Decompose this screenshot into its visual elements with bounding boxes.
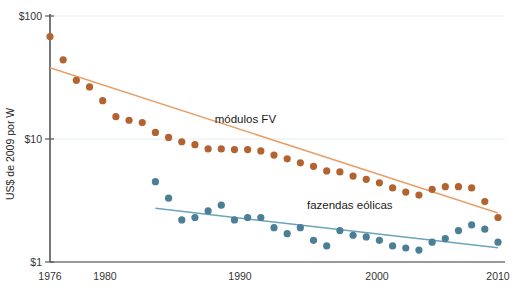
- data-point: [323, 242, 330, 249]
- data-point: [112, 113, 119, 120]
- data-point: [363, 176, 370, 183]
- data-point: [468, 221, 475, 228]
- series-label-wind-farms: fazendas eólicas: [307, 199, 393, 211]
- data-point: [389, 242, 396, 249]
- data-point: [257, 147, 264, 154]
- data-point: [86, 83, 93, 90]
- data-point: [494, 239, 501, 246]
- y-tick-label-100: $100: [19, 10, 43, 22]
- data-point: [218, 145, 225, 152]
- data-point: [310, 237, 317, 244]
- data-point: [178, 138, 185, 145]
- x-tick-label-2000: 2000: [365, 270, 389, 282]
- data-point: [152, 178, 159, 185]
- data-point: [402, 244, 409, 251]
- data-point: [73, 77, 80, 84]
- y-tick-label-1: $1: [30, 256, 42, 268]
- data-point: [270, 224, 277, 231]
- data-point: [165, 195, 172, 202]
- data-point: [494, 214, 501, 221]
- data-point: [244, 146, 251, 153]
- pv-modules-points: [46, 33, 501, 221]
- data-point: [376, 179, 383, 186]
- data-point: [442, 183, 449, 190]
- data-point: [349, 172, 356, 179]
- data-point: [152, 129, 159, 136]
- data-point: [415, 246, 422, 253]
- data-point: [191, 214, 198, 221]
- data-point: [429, 186, 436, 193]
- y-axis-title: US$ de 2009 por W: [4, 108, 16, 200]
- data-point: [165, 134, 172, 141]
- x-tick-label-1980: 1980: [93, 270, 117, 282]
- data-point: [468, 184, 475, 191]
- chart-svg: $100 $10 $1 US$ de 2009 por W 1976 1980 …: [0, 0, 515, 288]
- gridlines: [50, 16, 505, 139]
- data-point: [125, 117, 132, 124]
- data-point: [270, 151, 277, 158]
- data-point: [389, 184, 396, 191]
- data-point: [205, 145, 212, 152]
- data-point: [284, 230, 291, 237]
- data-point: [442, 235, 449, 242]
- series-label-pv-modules: módulos FV: [215, 113, 277, 125]
- data-point: [402, 189, 409, 196]
- data-point: [336, 227, 343, 234]
- data-point: [455, 227, 462, 234]
- data-point: [297, 224, 304, 231]
- data-point: [99, 97, 106, 104]
- data-point: [218, 202, 225, 209]
- data-point: [244, 214, 251, 221]
- axis-lines: [50, 14, 505, 262]
- data-point: [310, 163, 317, 170]
- data-point: [46, 33, 53, 40]
- y-tick-label-10: $10: [24, 133, 42, 145]
- data-point: [481, 198, 488, 205]
- data-point: [205, 207, 212, 214]
- data-point: [415, 191, 422, 198]
- data-point: [231, 146, 238, 153]
- data-point: [231, 216, 238, 223]
- data-point: [363, 233, 370, 240]
- data-point: [139, 119, 146, 126]
- data-point: [323, 167, 330, 174]
- data-point: [336, 168, 343, 175]
- data-point: [429, 239, 436, 246]
- x-tick-label-1990: 1990: [228, 270, 252, 282]
- data-point: [349, 232, 356, 239]
- data-point: [178, 216, 185, 223]
- chart-container: $100 $10 $1 US$ de 2009 por W 1976 1980 …: [0, 0, 515, 288]
- data-point: [284, 155, 291, 162]
- data-point: [297, 159, 304, 166]
- data-point: [455, 183, 462, 190]
- data-point: [257, 214, 264, 221]
- data-point: [376, 237, 383, 244]
- x-tick-label-1976: 1976: [38, 270, 62, 282]
- data-point: [481, 226, 488, 233]
- data-point: [60, 56, 67, 63]
- x-tick-label-2010: 2010: [486, 270, 510, 282]
- data-point: [191, 141, 198, 148]
